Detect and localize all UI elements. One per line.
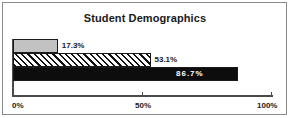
plot-area: 17.3% 53.1% 86.7% 0% 50% 100% bbox=[13, 39, 272, 97]
bar-segment-3 bbox=[13, 67, 238, 81]
bar-value-label-3: 86.7% bbox=[176, 67, 204, 81]
axis-tick-50 bbox=[142, 92, 143, 96]
bar-segment-1 bbox=[13, 39, 58, 53]
bar-value-label-1: 17.3% bbox=[58, 39, 85, 53]
bar-segment-2 bbox=[13, 53, 151, 67]
axis-label-100: 100% bbox=[257, 101, 277, 110]
axis-tick-100 bbox=[271, 92, 272, 96]
bar-value-label-2: 53.1% bbox=[151, 53, 178, 67]
chart-container: Student Demographics 17.3% 53.1% 86.7% 0… bbox=[0, 0, 290, 118]
chart-title: Student Demographics bbox=[0, 12, 290, 24]
axis-tick-0 bbox=[13, 92, 14, 96]
axis-label-0: 0% bbox=[12, 101, 24, 110]
axis-label-50: 50% bbox=[135, 101, 151, 110]
